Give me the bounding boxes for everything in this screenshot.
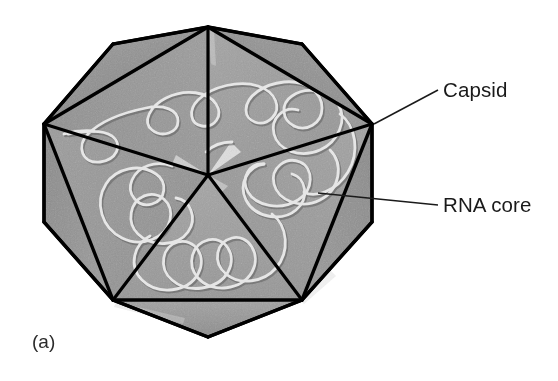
rna-core-label: RNA core [443, 193, 532, 216]
capsid-facet-bottom [113, 300, 302, 337]
panel-label: (a) [32, 331, 55, 352]
capsid-label: Capsid [443, 78, 507, 101]
virus-figure: Capsid RNA core (a) [0, 0, 558, 381]
virus-diagram-svg: Capsid RNA core (a) [0, 0, 558, 381]
capsid-leader-line [374, 90, 438, 124]
